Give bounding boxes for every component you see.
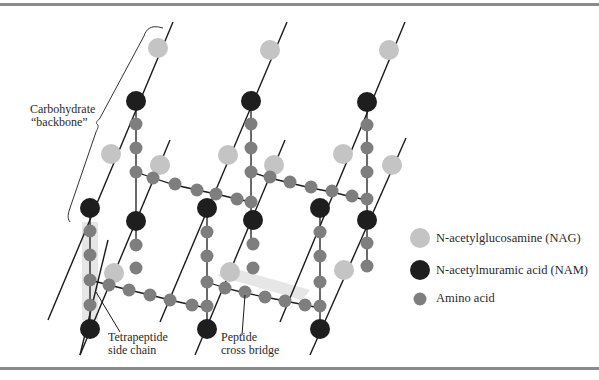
nam (310, 198, 330, 218)
nag (218, 145, 238, 165)
nam (241, 91, 261, 111)
legend-amino-label: Amino acid (436, 291, 495, 305)
nag (148, 38, 168, 58)
tetrapeptide-leader (96, 292, 120, 332)
nag (260, 40, 280, 60)
backbone-lines (48, 22, 406, 355)
nam-molecules (80, 91, 377, 339)
diagram-canvas: Carbohydrate “backbone” Tetrapeptide sid… (0, 0, 599, 380)
nam (357, 210, 377, 230)
legend-nag-swatch (410, 228, 430, 248)
legend-nam-swatch (410, 260, 430, 280)
tetrapeptide-label-line2: side chain (108, 343, 156, 357)
nam (126, 211, 146, 231)
legend-nam-label: N-acetylmuramic acid (NAM) (436, 263, 588, 277)
nag (379, 40, 399, 60)
nag (382, 155, 402, 175)
legend-nag-label: N-acetylglucosamine (NAG) (436, 231, 581, 245)
nag (220, 262, 240, 282)
nam (197, 198, 217, 218)
nam (80, 198, 100, 218)
tetrapeptide-label-line1: Tetrapeptide (108, 330, 168, 344)
nam (126, 91, 146, 111)
nam (80, 319, 100, 339)
nag (101, 144, 121, 164)
backbone-label-line2: “backbone” (31, 115, 88, 129)
nag (334, 260, 354, 280)
legend-amino-swatch (414, 293, 427, 306)
nam (243, 210, 263, 230)
crossbridge-label-line1: Peptide (221, 330, 257, 344)
backbone-label-line1: Carbohydrate (30, 102, 95, 116)
peptidoglycan-diagram: Carbohydrate “backbone” Tetrapeptide sid… (0, 0, 599, 380)
legend: N-acetylglucosamine (NAG) N-acetylmurami… (410, 228, 588, 306)
nam (357, 92, 377, 112)
nag (333, 144, 353, 164)
nam (310, 319, 330, 339)
crossbridge-leader (242, 295, 245, 335)
crossbridge-label-line2: cross bridge (221, 343, 279, 357)
nam (197, 319, 217, 339)
